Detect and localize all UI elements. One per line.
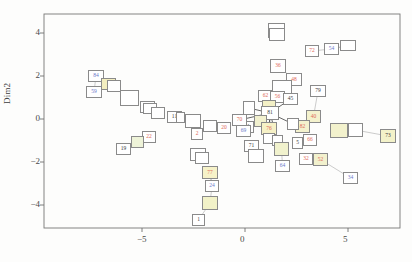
data-point-label: 62	[263, 93, 269, 99]
y-tick-label: 4	[26, 27, 40, 37]
data-point-unlabeled[interactable]	[203, 120, 217, 132]
x-tick-label: 0	[240, 234, 245, 244]
data-point-36[interactable]: 36	[270, 59, 286, 73]
data-point-label: 5	[296, 140, 299, 146]
data-point-label: 20	[221, 125, 227, 131]
data-point-unlabeled[interactable]	[151, 107, 165, 119]
data-point-unlabeled[interactable]	[248, 149, 264, 163]
data-point-unlabeled[interactable]	[107, 80, 121, 92]
data-point-24[interactable]: 24	[205, 180, 219, 192]
y-tick-label: −4	[26, 199, 40, 209]
data-point-22[interactable]: 22	[142, 131, 156, 143]
data-point-54[interactable]: 54	[324, 43, 339, 55]
data-point-unlabeled[interactable]	[330, 123, 348, 138]
data-point-unlabeled[interactable]	[274, 142, 289, 156]
data-point-label: 73	[385, 133, 391, 139]
data-point-64[interactable]: 64	[275, 160, 290, 172]
x-tick-label: 5	[343, 234, 348, 244]
data-point-unlabeled[interactable]	[243, 101, 255, 115]
data-point-label: 66	[307, 137, 313, 143]
data-point-label: 69	[241, 128, 247, 134]
data-point-77[interactable]: 77	[202, 166, 218, 179]
data-point-79[interactable]: 79	[310, 85, 326, 97]
data-point-unlabeled[interactable]	[287, 118, 299, 130]
data-point-72[interactable]: 72	[305, 45, 319, 57]
data-point-label: 70	[237, 117, 243, 123]
y-tick-label: 2	[26, 70, 40, 80]
data-point-unlabeled[interactable]	[202, 196, 218, 210]
data-point-unlabeled[interactable]	[120, 90, 139, 106]
data-point-label: 2	[196, 131, 199, 137]
data-point-label: 52	[318, 157, 324, 163]
data-point-59[interactable]: 59	[86, 86, 102, 98]
data-point-5[interactable]: 5	[292, 137, 303, 149]
data-point-label: 64	[280, 163, 286, 169]
data-point-label: 45	[288, 96, 294, 102]
data-point-label: 40	[311, 114, 317, 120]
data-point-label: 32	[303, 156, 309, 162]
data-point-unlabeled[interactable]	[176, 112, 185, 123]
plot-figure: Dim2 −505420−2−4 84598911202122219772413…	[0, 0, 412, 262]
y-tick-label: 0	[26, 113, 40, 123]
data-point-52[interactable]: 52	[313, 153, 328, 166]
data-point-label: 71	[249, 143, 255, 149]
data-point-label: 56	[275, 94, 281, 100]
data-point-label: 19	[121, 146, 127, 152]
data-point-label: 77	[207, 170, 213, 176]
data-point-32[interactable]: 32	[299, 153, 313, 165]
data-point-20[interactable]: 20	[217, 122, 231, 134]
data-point-unlabeled[interactable]	[340, 40, 356, 51]
data-point-label: 59	[91, 89, 97, 95]
data-point-45[interactable]: 45	[283, 93, 298, 105]
data-point-label: 72	[309, 48, 315, 54]
data-point-1[interactable]: 1	[192, 214, 205, 226]
data-point-unlabeled[interactable]	[131, 136, 144, 148]
data-point-66[interactable]: 66	[303, 134, 317, 146]
data-point-73[interactable]: 73	[380, 129, 396, 143]
y-tick-label: −2	[26, 156, 40, 166]
data-point-label: 54	[329, 46, 335, 52]
data-point-19[interactable]: 19	[116, 143, 131, 155]
data-point-label: 36	[275, 63, 281, 69]
data-point-label: 82	[300, 124, 306, 130]
data-point-label: 84	[93, 73, 99, 79]
data-point-label: 48	[291, 77, 297, 83]
data-point-34[interactable]: 34	[343, 172, 358, 184]
data-point-label: 24	[209, 183, 215, 189]
x-tick-label: −5	[137, 234, 147, 244]
data-point-label: 81	[267, 110, 273, 116]
data-point-label: 1	[197, 217, 200, 223]
data-point-unlabeled[interactable]	[269, 28, 285, 41]
data-point-unlabeled[interactable]	[195, 152, 209, 164]
data-point-label: 34	[348, 175, 354, 181]
data-point-label: 76	[266, 126, 272, 132]
data-point-label: 79	[315, 88, 321, 94]
data-point-label: 22	[146, 134, 152, 140]
data-point-2[interactable]: 2	[191, 128, 203, 140]
data-point-unlabeled[interactable]	[348, 123, 363, 137]
data-point-unlabeled[interactable]	[185, 114, 201, 128]
data-point-69[interactable]: 69	[236, 125, 251, 137]
